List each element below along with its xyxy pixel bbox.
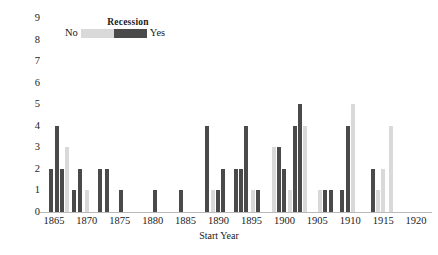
bar bbox=[60, 169, 64, 212]
x-axis-ticks: 1865187018751880188518901895190019051910… bbox=[0, 214, 438, 230]
x-tick-label: 1890 bbox=[208, 216, 229, 227]
bar bbox=[340, 190, 344, 212]
bar bbox=[49, 169, 53, 212]
x-tick-label: 1885 bbox=[175, 216, 196, 227]
bar bbox=[78, 169, 82, 212]
x-tick-label: 1910 bbox=[340, 216, 361, 227]
bar bbox=[298, 104, 302, 212]
x-tick-label: 1875 bbox=[109, 216, 130, 227]
x-tick-label: 1870 bbox=[76, 216, 97, 227]
bar bbox=[105, 169, 109, 212]
bar bbox=[323, 190, 327, 212]
x-axis-title: Start Year bbox=[0, 230, 438, 241]
bar bbox=[346, 126, 350, 212]
bar bbox=[239, 169, 243, 212]
bar bbox=[389, 126, 393, 212]
bar bbox=[381, 169, 385, 212]
y-tick-label: 5 bbox=[20, 99, 40, 110]
bar bbox=[72, 190, 76, 212]
bar bbox=[153, 190, 157, 212]
y-tick-label: 3 bbox=[20, 142, 40, 153]
bar bbox=[282, 169, 286, 212]
y-tick-label: 6 bbox=[20, 77, 40, 88]
x-tick-label: 1895 bbox=[241, 216, 262, 227]
x-tick-label: 1900 bbox=[274, 216, 295, 227]
y-axis-ticks: 0123456789 bbox=[16, 18, 40, 212]
bar bbox=[329, 190, 333, 212]
bar bbox=[179, 190, 183, 212]
x-tick-label: 1920 bbox=[406, 216, 427, 227]
bar bbox=[55, 126, 59, 212]
bar bbox=[293, 126, 297, 212]
bar bbox=[211, 190, 215, 212]
bar bbox=[119, 190, 123, 212]
bar bbox=[318, 190, 322, 212]
bar bbox=[244, 126, 248, 212]
bar bbox=[277, 147, 281, 212]
bar bbox=[351, 104, 355, 212]
bar bbox=[376, 190, 380, 212]
bar bbox=[288, 190, 292, 212]
bar bbox=[205, 126, 209, 212]
bar bbox=[221, 169, 225, 212]
x-tick-label: 1865 bbox=[43, 216, 64, 227]
bar bbox=[371, 169, 375, 212]
x-tick-label: 1915 bbox=[373, 216, 394, 227]
bar bbox=[303, 126, 307, 212]
y-tick-label: 1 bbox=[20, 185, 40, 196]
bar bbox=[234, 169, 238, 212]
bar bbox=[85, 190, 89, 212]
x-tick-label: 1880 bbox=[142, 216, 163, 227]
bar bbox=[272, 147, 276, 212]
bar bbox=[98, 169, 102, 212]
bar bbox=[65, 147, 69, 212]
bar bbox=[251, 190, 255, 212]
y-tick-label: 2 bbox=[20, 164, 40, 175]
y-tick-label: 7 bbox=[20, 56, 40, 67]
y-tick-label: 4 bbox=[20, 121, 40, 132]
y-tick-label: 9 bbox=[20, 13, 40, 24]
bar bbox=[256, 190, 260, 212]
x-axis-line bbox=[40, 212, 432, 213]
y-tick-label: 8 bbox=[20, 34, 40, 45]
plot-area bbox=[44, 18, 426, 212]
x-tick-label: 1905 bbox=[307, 216, 328, 227]
bar bbox=[216, 190, 220, 212]
bar-chart: Recession No Yes 0123456789 Intervention… bbox=[0, 0, 438, 255]
